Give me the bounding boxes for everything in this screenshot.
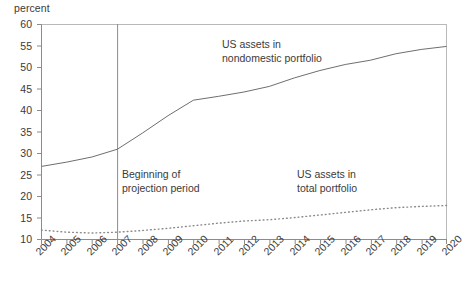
y-tick-label-55: 55	[8, 41, 32, 52]
y-tick-label-10: 10	[8, 234, 32, 245]
y-tick-label-50: 50	[8, 62, 32, 73]
y-tick-label-60: 60	[8, 19, 32, 30]
y-tick-label-40: 40	[8, 105, 32, 116]
annotation-nondomestic-portfolio: US assets in nondomestic portfolio	[222, 38, 322, 65]
annotation-projection-line1: Beginning of	[122, 168, 180, 180]
annotation-projection-line2: projection period	[122, 182, 200, 196]
y-tick-label-45: 45	[8, 84, 32, 95]
y-tick-marks	[37, 25, 42, 240]
annotation-nondomestic-line2: nondomestic portfolio	[222, 52, 322, 66]
y-tick-label-20: 20	[8, 191, 32, 202]
y-tick-label-35: 35	[8, 127, 32, 138]
annotation-total-line1: US assets in	[297, 168, 356, 180]
y-tick-label-15: 15	[8, 213, 32, 224]
series-line-total-portfolio	[42, 206, 447, 234]
annotation-total-portfolio: US assets in total portfolio	[297, 168, 357, 195]
annotation-nondomestic-line1: US assets in	[222, 38, 281, 50]
annotation-total-line2: total portfolio	[297, 182, 357, 196]
y-tick-label-30: 30	[8, 148, 32, 159]
y-tick-label-25: 25	[8, 170, 32, 181]
annotation-projection-period: Beginning of projection period	[122, 168, 200, 195]
